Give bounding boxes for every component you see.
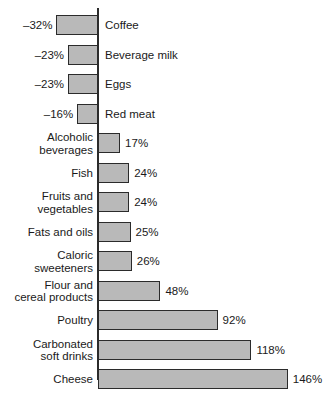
value-label: 17% <box>125 129 195 158</box>
value-label: 24% <box>134 188 204 217</box>
category-label: Flour and cereal products <box>0 277 93 306</box>
bar-row: Alcoholic beverages17% <box>0 129 331 158</box>
bar-row: Carbonated soft drinks118% <box>0 336 331 365</box>
category-label: Alcoholic beverages <box>0 129 93 158</box>
bar <box>98 251 132 271</box>
bar-row: Coffee–32% <box>0 11 331 40</box>
category-label: Fruits and vegetables <box>0 188 93 217</box>
category-label: Fats and oils <box>0 218 93 247</box>
category-label: Beverage milk <box>105 41 325 70</box>
value-label: 92% <box>223 306 293 335</box>
value-label: –23% <box>4 41 64 70</box>
category-label: Poultry <box>0 306 93 335</box>
value-label: 24% <box>134 159 204 188</box>
bar <box>98 340 251 360</box>
bar-row: Eggs–23% <box>0 70 331 99</box>
bar <box>98 310 218 330</box>
bar <box>98 133 120 153</box>
value-label: 146% <box>293 365 331 394</box>
value-label: –16% <box>13 100 73 129</box>
value-label: 48% <box>165 277 235 306</box>
value-label: 118% <box>256 336 326 365</box>
bar <box>98 192 129 212</box>
bar-row: Poultry92% <box>0 306 331 335</box>
category-label: Red meat <box>105 100 325 129</box>
bar <box>68 45 98 65</box>
category-label: Caloric sweeteners <box>0 247 93 276</box>
bar-row: Flour and cereal products48% <box>0 277 331 306</box>
bar <box>56 15 98 35</box>
value-label: –23% <box>4 70 64 99</box>
category-label: Eggs <box>105 70 325 99</box>
bar-row: Fish24% <box>0 159 331 188</box>
bar <box>98 222 131 242</box>
bar-chart: Coffee–32%Beverage milk–23%Eggs–23%Red m… <box>0 0 331 397</box>
bar <box>68 74 98 94</box>
value-label: 25% <box>136 218 206 247</box>
category-label: Coffee <box>105 11 325 40</box>
bar-row: Cheese146% <box>0 365 331 394</box>
bar-row: Fruits and vegetables24% <box>0 188 331 217</box>
category-label: Cheese <box>0 365 93 394</box>
bar-row: Fats and oils25% <box>0 218 331 247</box>
category-label: Fish <box>0 159 93 188</box>
bar <box>77 104 98 124</box>
bar <box>98 369 288 389</box>
bar-row: Beverage milk–23% <box>0 41 331 70</box>
value-label: 26% <box>137 247 207 276</box>
category-label: Carbonated soft drinks <box>0 336 93 365</box>
value-label: –32% <box>0 11 52 40</box>
bar <box>98 163 129 183</box>
bar-row: Red meat–16% <box>0 100 331 129</box>
bar-row: Caloric sweeteners26% <box>0 247 331 276</box>
bar <box>98 281 160 301</box>
